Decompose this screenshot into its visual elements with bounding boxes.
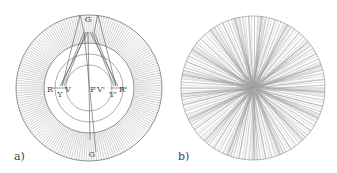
label-v-right: V' (96, 85, 105, 94)
panel-b-label: b) (178, 150, 189, 163)
panel-a-diagram: GGRYVFV'Y'R' a) (14, 15, 162, 163)
label-r-right: R' (119, 85, 127, 94)
label-f: F (90, 85, 96, 94)
panel-b-diagram: b) (178, 16, 325, 163)
label-y-right: Y' (108, 90, 116, 99)
label-g-bottom: G (89, 150, 95, 159)
radial-chord-pattern (181, 16, 325, 160)
panel-a-label: a) (14, 150, 25, 163)
label-y-left: Y (56, 90, 63, 99)
label-g-top: G (85, 15, 91, 24)
label-v-left: V (64, 85, 71, 94)
label-r: R (47, 85, 54, 94)
figure-diagram: GGRYVFV'Y'R' a) b) (0, 0, 337, 173)
